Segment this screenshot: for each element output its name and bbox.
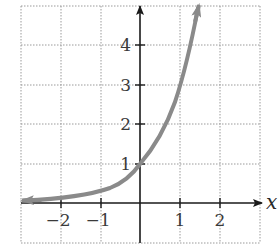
y-tick-label: 2 (120, 114, 131, 134)
y-tick-label: 3 (120, 75, 131, 95)
x-axis-label: x (266, 190, 277, 214)
x-tick-label: −2 (45, 210, 70, 230)
exponential-curve (24, 8, 198, 201)
y-tick-label: 4 (120, 35, 131, 55)
exponential-chart: −2 −1 1 2 1 2 3 4 x (0, 0, 279, 252)
x-tick-label: 2 (215, 210, 226, 230)
x-tick-label: −1 (85, 210, 110, 230)
y-tick-label: 1 (120, 154, 131, 174)
x-tick-label: 1 (175, 210, 186, 230)
